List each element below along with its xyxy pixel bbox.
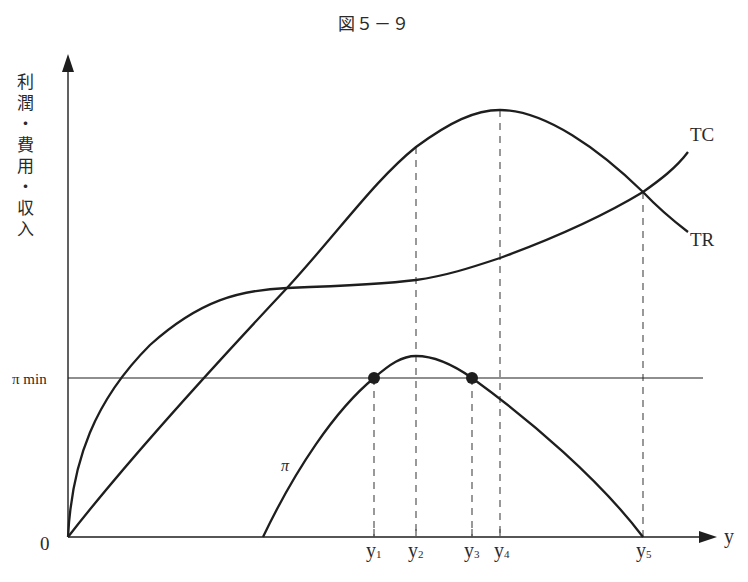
tc-curve xyxy=(68,152,688,537)
pi-curve xyxy=(263,356,643,537)
x-tick-label: y3 xyxy=(464,539,480,562)
point-y1-pi-min xyxy=(368,372,380,384)
pi-min-label: π min xyxy=(12,371,47,387)
x-tick-label: y5 xyxy=(636,539,652,562)
x-tick-label: y1 xyxy=(366,539,382,562)
tr-label: TR xyxy=(690,229,715,250)
x-tick-label: y4 xyxy=(494,539,510,562)
figure-5-9: 図５－９ 利 潤 ・ 費 用 ・ 収 入 xyxy=(0,0,748,582)
dashed-guides xyxy=(374,110,643,537)
x-tick-label: y2 xyxy=(408,539,424,562)
x-axis-label: y xyxy=(724,525,734,548)
tr-curve xyxy=(68,110,688,537)
y-axis-arrow-icon xyxy=(62,54,74,72)
origin-label: 0 xyxy=(40,533,50,554)
point-y3-pi-min xyxy=(466,372,478,384)
x-tick-labels: y1 y2 y3 y4 y5 xyxy=(366,539,652,562)
pi-label: π xyxy=(281,457,290,474)
tc-label: TC xyxy=(690,124,714,145)
x-axis-arrow-icon xyxy=(699,531,717,543)
plot-area: TC TR π π min 0 y y1 y2 y3 y4 y5 xyxy=(0,0,748,582)
